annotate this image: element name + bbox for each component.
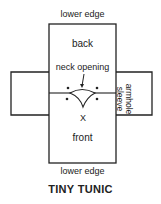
back-label: back — [49, 38, 116, 49]
top-edge-label: lower edge — [49, 9, 116, 19]
dot-marker — [96, 98, 99, 101]
dot-marker — [66, 98, 69, 101]
neck-opening-shape — [70, 90, 95, 108]
armhole-sleeve-label: armhole sleeve — [113, 77, 133, 121]
neck-opening-label: neck opening — [49, 62, 116, 72]
armhole-label: armhole — [124, 77, 133, 121]
center-mark-label: X — [77, 113, 89, 123]
arrowhead-icon — [80, 84, 84, 88]
front-label: front — [49, 132, 116, 143]
dot-marker — [96, 87, 99, 90]
diagram-title: TINY TUNIC — [0, 183, 161, 195]
left-sleeve — [11, 72, 49, 115]
sleeve-label: sleeve — [115, 77, 124, 121]
dot-marker — [67, 87, 70, 90]
bottom-edge-label: lower edge — [49, 166, 116, 176]
